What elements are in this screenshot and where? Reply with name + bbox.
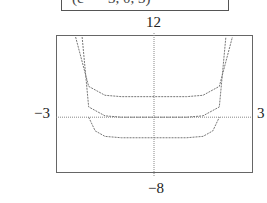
plot [0, 0, 267, 203]
